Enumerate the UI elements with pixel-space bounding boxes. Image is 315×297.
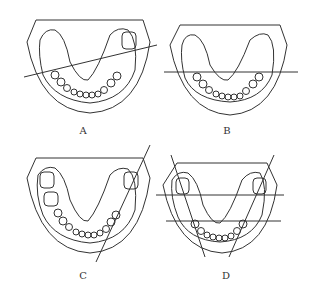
dental-arch-b-drawing — [155, 0, 315, 145]
panel-b: B — [155, 0, 305, 140]
panel-label-c: C — [73, 270, 93, 281]
panel-c: C — [0, 145, 150, 285]
panel-label-a: A — [73, 125, 93, 136]
panel-d: D — [150, 145, 300, 285]
dental-arch-a-drawing — [0, 0, 160, 145]
panel-a: A — [0, 0, 150, 140]
panel-label-d: D — [216, 270, 236, 281]
panel-label-b: B — [217, 125, 237, 136]
